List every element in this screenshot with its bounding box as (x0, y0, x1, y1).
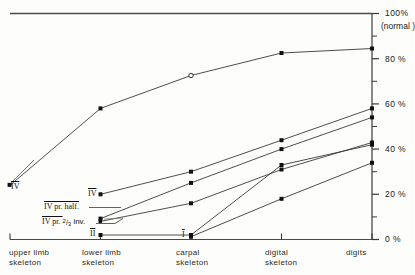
x-tick-label-lower-limb-skeleton: lower limb skeleton (82, 248, 162, 268)
fraction-numerator: 2 (63, 218, 66, 224)
annotation-leader-lines (89, 208, 123, 224)
annotation-iv-pr-23-inv: IV pr. 2/3 inv. (42, 217, 85, 228)
series-line-iv-pr-half (101, 117, 373, 218)
data-point (280, 138, 284, 142)
annotation-iv-pr-23-fraction: 2/3 (63, 218, 72, 228)
annotation-iv-pr-23-prefix: IV pr. (42, 217, 63, 226)
data-point (370, 47, 374, 51)
y-tick-label-100: 100% (385, 8, 408, 18)
series-line-ii (101, 145, 373, 235)
y-axis-normal-note: (normal ) (381, 21, 415, 31)
annotation-iv-pr-half: IV pr. half. (44, 202, 79, 211)
x-tick-label-digits: digits (346, 248, 396, 258)
x-tick-label-digital-skeleton: digital skeleton (265, 248, 335, 268)
series-line-iv (10, 49, 372, 186)
data-point (280, 197, 284, 201)
series-line-iv-lower (101, 108, 373, 194)
y-tick-label-80: 80 % (385, 54, 406, 64)
data-point (189, 235, 193, 239)
y-minor-ticks (372, 36, 377, 217)
data-point (99, 219, 103, 223)
data-point (280, 168, 284, 172)
y-tick-label-40: 40 % (385, 144, 406, 154)
data-point (189, 201, 193, 205)
annotation-iv-pr-23-suffix: inv. (71, 217, 85, 226)
series-tag-iv-lower: IV (88, 189, 96, 198)
data-point (370, 143, 374, 147)
data-point-open (189, 73, 193, 77)
series-tag-i: I (182, 230, 185, 239)
y-tick-label-20: 20 % (385, 189, 406, 199)
x-tick-label-upper-limb-skeleton: upper limb skeleton (9, 248, 89, 268)
series-tag-iv-upper: IV (11, 182, 19, 191)
y-tick-label-60: 60 % (385, 99, 406, 109)
data-point (99, 106, 103, 110)
series-tag-ii: II (90, 229, 95, 238)
x-tick-label-carpal-skeleton: carpal skeleton (176, 248, 246, 268)
data-point (189, 170, 193, 174)
data-point (189, 181, 193, 185)
data-point (280, 51, 284, 55)
data-point (370, 161, 374, 165)
data-point (280, 163, 284, 167)
iv-marker-leader (11, 160, 34, 183)
annotation-iv-pr-half-text: IV pr. half. (44, 202, 79, 211)
data-point (370, 115, 374, 119)
y-tick-label-0: 0 % (385, 234, 401, 244)
annotation-connectors (104, 218, 123, 219)
data-point (370, 106, 374, 110)
series-line-iv-pr-23-inv (101, 143, 373, 222)
data-point (99, 233, 103, 237)
data-point (99, 192, 103, 196)
data-point (280, 147, 284, 151)
